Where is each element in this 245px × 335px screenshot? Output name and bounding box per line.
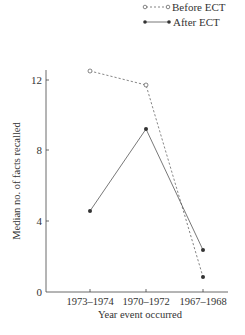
ytick-label: 0 — [37, 286, 43, 298]
xtick-label: 1970–1972 — [122, 296, 169, 307]
legend-before-marker-icon — [143, 5, 147, 9]
xtick-label: 1967–1968 — [179, 296, 226, 307]
after-ect-point — [201, 248, 205, 252]
x-axis-title: Year event occurred — [98, 309, 183, 320]
legend-after-marker-icon — [167, 20, 171, 24]
before-ect-line — [90, 71, 203, 277]
xtick-label: 1973–1974 — [66, 296, 114, 307]
after-ect-point — [88, 209, 92, 213]
ytick-label: 12 — [31, 74, 42, 86]
y-axis-title: Median no. of facts recalled — [11, 122, 22, 240]
ytick-label: 8 — [37, 144, 43, 156]
ytick-label: 4 — [37, 215, 43, 227]
legend-after-label: After ECT — [173, 16, 220, 28]
legend-before-label: Before ECT — [172, 1, 226, 13]
before-ect-point — [201, 275, 205, 279]
legend-before-marker-icon — [166, 5, 170, 9]
legend: Before ECT After ECT — [143, 1, 226, 28]
axes: 12 8 4 0 1973–1974 1970–1972 1967–1968 Y… — [11, 70, 228, 320]
legend-after-marker-icon — [143, 20, 147, 24]
line-chart: Before ECT After ECT 12 8 4 0 1973–1974 … — [0, 0, 245, 335]
after-ect-line — [90, 129, 203, 250]
before-ect-point — [144, 83, 148, 87]
after-ect-point — [144, 127, 148, 131]
series-before-ect — [88, 69, 205, 279]
before-ect-point — [88, 69, 92, 73]
series-after-ect — [88, 127, 205, 252]
